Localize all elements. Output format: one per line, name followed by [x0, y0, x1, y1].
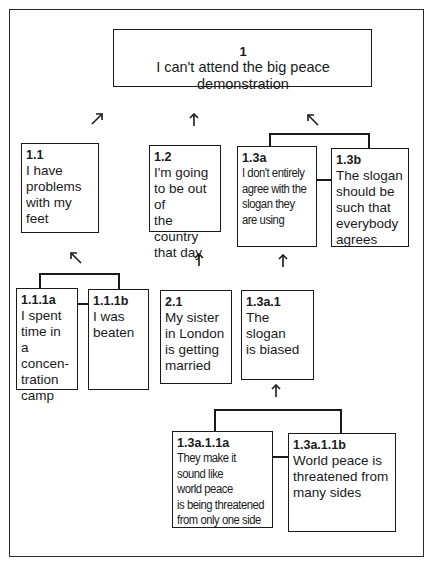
- node-text: I don't entirely agree with the slogan t…: [242, 166, 312, 228]
- node-1-1: 1.1 I have problems with my feet: [21, 143, 99, 233]
- bracket-leg: [269, 133, 271, 147]
- arrow-up-icon: [187, 113, 201, 127]
- arrow-up-left-icon: [69, 251, 83, 265]
- coordination-bracket: [214, 409, 342, 411]
- node-1-1-1b: 1.1.1b I was beaten: [88, 289, 149, 390]
- node-label: 1.3a.1: [246, 295, 310, 310]
- node-label: 1.1: [26, 148, 95, 163]
- node-1-3a-1: 1.3a.1 The slogan is biased: [241, 290, 314, 380]
- bracket-leg: [214, 409, 216, 432]
- node-label: 1.1.1a: [21, 293, 74, 308]
- node-text: The slogan is biased: [246, 310, 310, 358]
- node-1-1-1a: 1.1.1a I spent time in a concen- tration…: [16, 288, 78, 390]
- node-1-3a: 1.3a I don't entirely agree with the slo…: [237, 146, 317, 247]
- node-label: 1.2: [154, 150, 217, 165]
- node-text: I can't attend the big peace demonstrati…: [118, 59, 368, 93]
- node-label: 1.3a: [242, 151, 313, 166]
- node-label: 1.3a.1.1a: [177, 436, 269, 451]
- node-2-1: 2.1 My sister in London is getting marri…: [160, 290, 232, 384]
- coordination-connector: [271, 456, 289, 458]
- node-1-3a-1-1b: 1.3a.1.1b World peace is threatened from…: [288, 433, 396, 532]
- node-1-2: 1.2 I'm going to be out of the country t…: [149, 145, 221, 232]
- coordination-bracket: [269, 133, 370, 135]
- node-text: I was beaten: [93, 309, 145, 341]
- node-text: I'm going to be out of the country that …: [154, 165, 217, 261]
- node-1: 1 I can't attend the big peace demonstra…: [113, 29, 372, 87]
- bracket-leg: [368, 133, 370, 149]
- coordination-bracket: [39, 273, 119, 275]
- bracket-leg: [39, 273, 41, 289]
- node-label: 1.3b: [336, 153, 405, 168]
- node-label: 2.1: [165, 295, 228, 310]
- node-text: I have problems with my feet: [26, 163, 95, 227]
- node-label: 1.1.1b: [93, 294, 145, 309]
- arrow-up-icon: [276, 254, 290, 268]
- node-text: They make it sound like world peace is b…: [177, 451, 268, 529]
- node-text: My sister in London is getting married: [165, 310, 228, 374]
- arrow-up-right-icon: [90, 112, 104, 126]
- node-text: I spent time in a concen- tration camp: [21, 308, 74, 404]
- node-text: World peace is threatened from many side…: [293, 453, 392, 501]
- bracket-leg: [340, 409, 342, 434]
- coordination-connector: [316, 179, 332, 181]
- node-text: The slogan should be such that everybody…: [336, 168, 405, 248]
- node-label: 1.3a.1.1b: [293, 438, 392, 453]
- bracket-leg: [118, 273, 120, 290]
- node-label: 1: [118, 44, 368, 59]
- arrow-up-icon: [192, 253, 206, 267]
- arrow-up-left-icon: [306, 113, 320, 127]
- arrow-up-icon: [269, 384, 283, 398]
- node-1-3b: 1.3b The slogan should be such that ever…: [331, 148, 409, 247]
- node-1-3a-1-1a: 1.3a.1.1a They make it sound like world …: [172, 431, 273, 528]
